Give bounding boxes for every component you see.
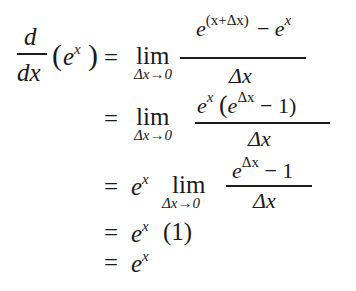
numerator: e(x+Δx)− ex <box>196 18 291 40</box>
lhs-base: ex <box>63 44 81 69</box>
lim-subscript: Δx→0 <box>134 67 172 82</box>
lhs-denominator: dx <box>17 60 41 85</box>
lhs-numerator: d <box>24 24 37 49</box>
equals-sign: = <box>104 174 118 199</box>
equals-sign: = <box>104 220 118 245</box>
numerator: eΔx − 1 <box>232 160 293 182</box>
denominator: Δx <box>229 65 252 87</box>
lhs-fraction-bar <box>17 53 47 55</box>
denominator: Δx <box>248 128 271 150</box>
fraction-bar <box>180 57 306 59</box>
lim-operator: lim <box>136 104 169 129</box>
denominator: Δx <box>253 190 276 212</box>
lim-operator: lim <box>136 43 169 68</box>
equals-sign: = <box>104 106 118 131</box>
lhs-open-paren: ( <box>52 40 62 70</box>
coefficient: ex <box>131 174 149 199</box>
factor-one: (1) <box>163 219 192 244</box>
equals-sign: = <box>104 45 118 70</box>
lim-operator: lim <box>172 172 205 197</box>
lim-subscript: Δx→0 <box>134 128 172 143</box>
equals-sign: = <box>104 250 118 275</box>
result-base: ex <box>131 221 149 246</box>
final-result: ex <box>131 251 149 276</box>
fraction-bar <box>195 122 330 124</box>
numerator: ex (eΔx − 1) <box>197 92 296 118</box>
fraction-bar <box>226 185 312 187</box>
lim-subscript: Δx→0 <box>162 196 200 211</box>
lhs-close-paren: ) <box>88 40 98 70</box>
